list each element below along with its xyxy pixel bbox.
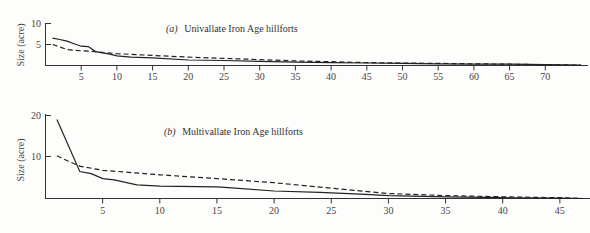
x-tick-label: 65 — [505, 71, 515, 82]
x-tick-label: 5 — [100, 205, 105, 216]
panel-a-univallate: Size (acre) 10 5 51015202530354045505560… — [15, 18, 588, 82]
panel-a-x-ticks: 510152025303540455055606570 — [79, 66, 551, 83]
x-tick-label: 55 — [433, 71, 443, 82]
panel-a-title: (a) Univallate Iron Age hillforts — [166, 23, 298, 35]
x-tick-label: 20 — [183, 71, 193, 82]
x-tick-label: 50 — [398, 71, 408, 82]
panel-a-y-axis-label: Size (acre) — [15, 23, 27, 66]
x-tick-label: 10 — [112, 71, 122, 82]
x-tick-label: 30 — [255, 71, 265, 82]
x-tick-label: 5 — [79, 71, 84, 82]
panel-b-x-ticks: 51015202530354045 — [100, 199, 565, 217]
panel-a-ytick-label-5: 5 — [36, 39, 41, 50]
x-tick-label: 25 — [326, 205, 336, 216]
x-tick-label: 30 — [383, 205, 393, 216]
x-tick-label: 70 — [540, 71, 550, 82]
x-tick-label: 40 — [498, 205, 508, 216]
panel-b-y-axis-label: Size (acre) — [15, 138, 27, 181]
x-tick-label: 25 — [219, 71, 229, 82]
panel-a-ytick-label-10: 10 — [31, 18, 41, 29]
x-tick-label: 15 — [148, 71, 158, 82]
x-tick-label: 45 — [555, 205, 565, 216]
panel-b-ytick-label-10: 10 — [31, 151, 41, 162]
chart-canvas: Size (acre) 10 5 51015202530354045505560… — [0, 0, 590, 233]
x-tick-label: 35 — [441, 205, 451, 216]
x-tick-label: 60 — [469, 71, 479, 82]
x-tick-label: 35 — [290, 71, 300, 82]
x-tick-label: 40 — [326, 71, 336, 82]
x-tick-label: 45 — [362, 71, 372, 82]
x-tick-label: 20 — [269, 205, 279, 216]
x-tick-label: 15 — [212, 205, 222, 216]
panel-b-ytick-label-20: 20 — [31, 110, 41, 121]
panel-b-multivallate: Size (acre) 20 10 51015202530354045 (b) … — [15, 110, 590, 216]
panel-b-title: (b) Multivallate Iron Age hillforts — [164, 126, 303, 138]
x-tick-label: 10 — [155, 205, 165, 216]
